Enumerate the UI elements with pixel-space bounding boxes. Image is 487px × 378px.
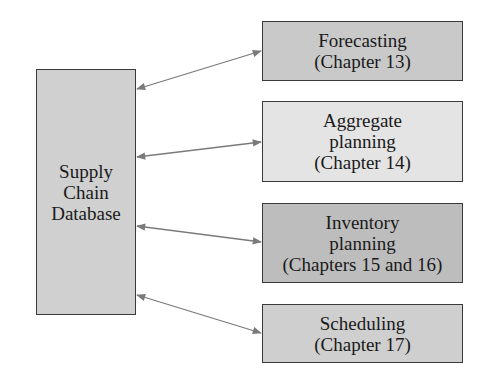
arrow-database-inventory-planning xyxy=(137,226,261,242)
module-chapter: (Chapter 17) xyxy=(314,334,411,355)
module-title: planning xyxy=(329,131,396,152)
arrow-database-aggregate-planning xyxy=(137,142,261,157)
module-title: Scheduling xyxy=(320,313,406,334)
arrow-database-forecasting xyxy=(137,51,261,89)
database-label-line: Supply xyxy=(59,161,113,182)
module-chapter: (Chapter 14) xyxy=(314,152,411,173)
database-label-line: Chain xyxy=(63,182,108,203)
scheduling-box: Scheduling (Chapter 17) xyxy=(262,304,463,363)
forecasting-box: Forecasting (Chapter 13) xyxy=(262,21,463,81)
aggregate-planning-box: Aggregate planning (Chapter 14) xyxy=(262,101,463,182)
supply-chain-database-box: Supply Chain Database xyxy=(36,69,136,315)
module-chapter: (Chapter 13) xyxy=(314,51,411,72)
module-title: Forecasting xyxy=(318,30,407,51)
module-title: Inventory xyxy=(326,212,400,233)
arrow-database-scheduling xyxy=(137,295,261,333)
module-title: planning xyxy=(329,233,396,254)
module-chapter: (Chapters 15 and 16) xyxy=(283,254,443,275)
module-title: Aggregate xyxy=(323,110,402,131)
inventory-planning-box: Inventory planning (Chapters 15 and 16) xyxy=(262,203,463,283)
database-label-line: Database xyxy=(51,203,121,224)
